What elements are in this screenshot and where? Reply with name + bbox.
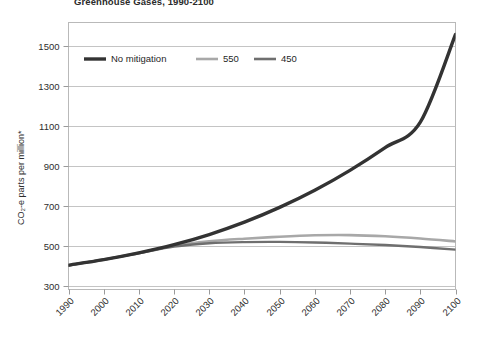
- x-axis-ticks-group: [70, 290, 457, 295]
- series-line-550: [69, 235, 456, 265]
- chart-figure: Greenhouse Gases, 1990-2100 300500700900…: [0, 0, 477, 338]
- y-axis-ticks-group: [64, 47, 69, 287]
- chart-legend: No mitigation550450: [84, 53, 297, 64]
- x-tick-label: 1990: [53, 295, 76, 318]
- y-tick-label: 900: [44, 161, 60, 172]
- x-tick-label: 2030: [193, 295, 216, 318]
- x-tick-label: 2070: [334, 295, 357, 318]
- series-line-450: [69, 242, 456, 265]
- series-line-no-mitigation: [69, 34, 456, 265]
- x-tick-label: 2060: [299, 295, 322, 318]
- y-tick-label: 1300: [38, 81, 59, 92]
- x-axis-labels-group: 1990200020102020203020402050206020702080…: [53, 295, 463, 318]
- chart-plot-area: 300500700900110013001500 199020002010202…: [0, 0, 477, 338]
- y-tick-label: 700: [44, 201, 60, 212]
- y-tick-label: 1100: [39, 121, 59, 132]
- x-tick-label: 2000: [88, 295, 111, 318]
- x-tick-label: 2020: [158, 295, 181, 318]
- y-axis-title: CO₂-e parts per million*: [16, 130, 26, 225]
- data-series-group: [69, 34, 456, 265]
- x-tick-label: 2080: [369, 295, 392, 318]
- y-tick-label: 500: [44, 241, 60, 252]
- x-tick-label: 2090: [404, 295, 427, 318]
- legend-label-550: 550: [223, 53, 239, 64]
- y-tick-label: 1500: [38, 41, 59, 52]
- x-tick-label: 2050: [264, 295, 287, 318]
- y-axis-labels-group: 300500700900110013001500: [38, 41, 59, 292]
- x-tick-label: 2100: [440, 295, 463, 318]
- x-tick-label: 2040: [228, 295, 251, 318]
- legend-label-450: 450: [281, 53, 297, 64]
- y-tick-label: 300: [44, 281, 60, 292]
- legend-label-no-mitigation: No mitigation: [111, 53, 166, 64]
- gridlines-group: [69, 47, 456, 287]
- x-tick-label: 2010: [123, 295, 146, 318]
